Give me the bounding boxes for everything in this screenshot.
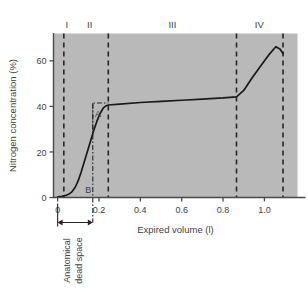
plot-area-background	[54, 34, 298, 198]
x-tick-label-4: 0.8	[217, 205, 230, 215]
phase-label-III: III	[168, 19, 176, 30]
dead-space-label-line1: Anatomical	[62, 238, 72, 283]
y-axis-title: Nitrogen concentration (%)	[7, 59, 18, 172]
phase-label-II: II	[87, 19, 92, 30]
label-b: B	[85, 185, 91, 195]
x-tick-label-5: 1.0	[258, 205, 271, 215]
y-tick-label-2: 40	[36, 102, 46, 112]
x-axis-title: Expired volume (l)	[137, 224, 214, 235]
chart-svg: 020406000.20.40.60.81.0Expired volume (l…	[0, 0, 308, 293]
dead-space-label-line2: dead space	[74, 237, 84, 284]
dead-space-arrow-head-left	[58, 220, 63, 226]
y-tick-label-0: 0	[41, 193, 46, 203]
dead-space-arrow-head-right	[88, 220, 93, 226]
phase-label-I: I	[66, 19, 69, 30]
y-tick-label-1: 20	[36, 148, 46, 158]
x-tick-label-3: 0.6	[175, 205, 188, 215]
nitrogen-washout-figure: 020406000.20.40.60.81.0Expired volume (l…	[0, 0, 308, 293]
x-tick-label-2: 0.4	[134, 205, 147, 215]
phase-label-IV: IV	[255, 19, 265, 30]
label-a: A	[95, 109, 101, 119]
y-tick-label-3: 60	[36, 56, 46, 66]
x-tick-label-1: 0.2	[93, 205, 106, 215]
